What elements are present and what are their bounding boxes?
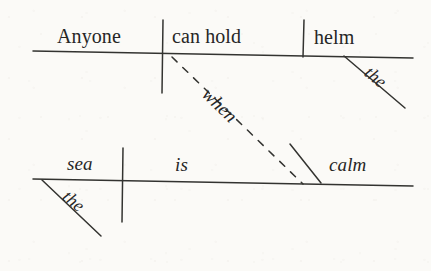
word-subject-anyone: Anyone <box>57 26 121 46</box>
word-verb-can-hold: can hold <box>172 26 241 46</box>
word-predicate-adjective-calm: calm <box>329 155 366 174</box>
word-subordinate-subject-sea: sea <box>67 154 93 173</box>
subject-verb-divider <box>162 20 163 93</box>
subordinate-clause-baseline <box>33 179 413 186</box>
word-object-helm: helm <box>314 27 354 47</box>
word-subordinate-verb-is: is <box>175 155 188 174</box>
predicate-adjective-divider <box>290 144 321 183</box>
main-clause-baseline <box>33 51 413 58</box>
subordinate-subject-verb-divider <box>122 148 123 222</box>
sentence-diagram: Anyone can hold helm the when sea the is… <box>0 0 431 271</box>
subordinating-conjunction-line <box>172 57 303 184</box>
verb-object-divider <box>303 20 304 57</box>
